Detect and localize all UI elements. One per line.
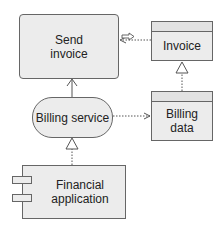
- node-billing-service[interactable]: Billing service: [32, 97, 113, 138]
- edge-used-by-billing-service-to-send-invoice: [67, 79, 77, 97]
- node-financial-application[interactable]: Financial application: [22, 165, 126, 219]
- process-arrow-icon: [121, 32, 135, 41]
- node-label: Send invoice: [50, 33, 87, 61]
- object-header: [152, 22, 212, 32]
- component-icon: [12, 194, 32, 202]
- edge-access-billing-service-to-billing-data: [113, 113, 150, 119]
- node-label: Invoice: [163, 39, 201, 53]
- node-billing-data[interactable]: Billing data: [151, 91, 213, 141]
- component-icon: [12, 176, 32, 184]
- node-label: Billing service: [36, 111, 109, 125]
- node-label: Financial application: [39, 178, 108, 206]
- node-invoice[interactable]: Invoice: [151, 21, 213, 61]
- node-send-invoice[interactable]: Send invoice: [19, 14, 119, 79]
- node-label: Billing data: [166, 107, 198, 135]
- edge-realization-financial-app-to-billing-service: [66, 138, 78, 165]
- edge-realization-billing-data-to-invoice: [176, 62, 188, 91]
- object-header: [152, 92, 212, 102]
